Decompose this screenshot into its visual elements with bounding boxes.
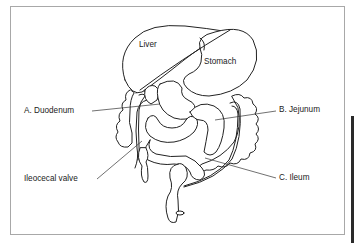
- label-stomach: Stomach: [204, 58, 236, 66]
- small-intestine-coil-1: [145, 115, 197, 142]
- callout-duodenum: A. Duodenum: [24, 107, 74, 115]
- label-liver: Liver: [139, 41, 157, 49]
- callout-ileocecal-valve: Ileocecal valve: [24, 175, 78, 183]
- callout-ileum: C. Ileum: [279, 174, 309, 182]
- rectum-opening: [176, 211, 184, 215]
- callout-jejunum: B. Jejunum: [279, 106, 320, 114]
- digestive-diagram: [0, 0, 354, 243]
- leader-ileocecal-valve: [97, 141, 142, 179]
- cecum: [138, 148, 148, 182]
- duodenum: [145, 86, 159, 105]
- colon-ascending: [116, 90, 134, 147]
